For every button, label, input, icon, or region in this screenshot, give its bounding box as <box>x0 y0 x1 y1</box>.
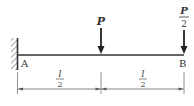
load-label-end-numerator: P <box>179 5 188 16</box>
svg-text:2: 2 <box>140 80 145 89</box>
dimension-label-left: l 2 <box>56 69 64 89</box>
dimension-ticks <box>18 72 185 94</box>
svg-text:2: 2 <box>57 80 62 89</box>
load-label-end-denominator: 2 <box>181 19 187 29</box>
svg-text:l: l <box>142 69 145 79</box>
point-label-b: B <box>179 58 186 69</box>
load-arrow-end <box>181 30 188 54</box>
load-arrow-midspan <box>98 28 105 54</box>
load-label-midspan: P <box>96 15 106 28</box>
fixed-support <box>11 38 18 70</box>
cantilever-diagram: P P 2 A B l 2 l 2 <box>0 0 194 106</box>
svg-text:l: l <box>59 69 62 79</box>
point-label-a: A <box>20 58 29 69</box>
dimension-label-right: l 2 <box>139 69 147 89</box>
